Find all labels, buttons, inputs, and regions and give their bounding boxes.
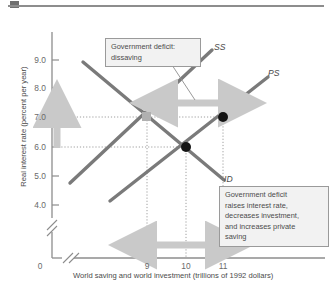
y-tick-4: 4.0 [20,200,46,210]
x-axis-title: World saving and world investment (trill… [73,271,273,280]
callout-government-deficit-dissaving: Government deficit: dissaving [105,38,201,67]
curve-id [83,62,224,180]
point-new-equilibrium [218,112,228,122]
economics-figure: 9.0 8.0 7.0 6.0 5.0 4.0 0 9 10 11 SS PS … [0,0,332,288]
x-tick-11: 11 [213,261,233,271]
x-tick-9: 9 [137,261,157,271]
curve-label-ps: PS [268,68,279,78]
curve-ps [110,77,268,201]
curve-label-ss: SS [214,42,225,52]
x-tick-10: 10 [176,261,196,271]
point-private-saving [181,142,191,152]
guide-lines [52,117,224,258]
y-axis-title: Real interest rate (percent per year) [19,52,28,202]
annotation-arrows [57,103,225,245]
point-initial-equilibrium [142,112,151,121]
x-tick-0: 0 [30,261,50,271]
callout-government-deficit-effects: Government deficit raises interest rate,… [219,186,329,247]
curve-label-id: ID [224,174,233,184]
